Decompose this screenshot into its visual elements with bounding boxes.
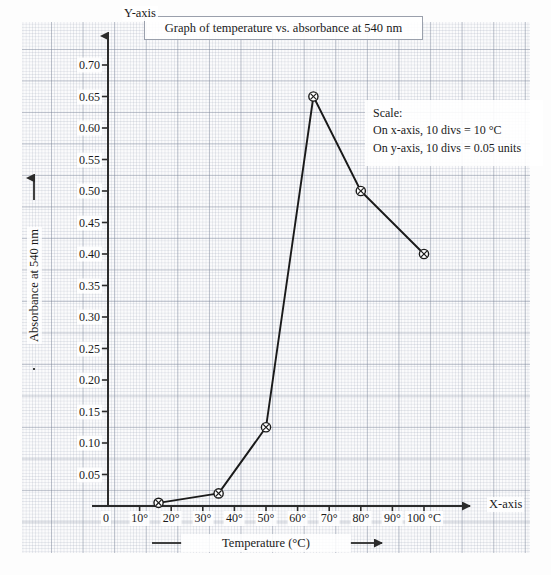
x-axis-caption: Temperature (°C)	[181, 534, 351, 552]
y-tick-label: 0.40	[77, 247, 102, 262]
data-point-marker	[154, 498, 163, 507]
y-axis-ticks	[101, 65, 108, 475]
y-tick-label: 0.25	[77, 341, 102, 356]
y-tick-label: 0.30	[77, 310, 102, 325]
x-tick-label: 60°	[287, 511, 308, 526]
data-point-marker	[214, 489, 223, 498]
x-tick-label: 40°	[224, 511, 245, 526]
y-tick-label: 0.05	[77, 467, 102, 482]
data-point-marker	[309, 92, 318, 101]
y-tick-label: 0.15	[77, 404, 102, 419]
y-tick-label: 0.10	[77, 436, 102, 451]
data-point-marker	[356, 186, 365, 195]
x-tick-label: 80°	[350, 511, 371, 526]
x-tick-label: 20°	[161, 511, 182, 526]
y-tick-label: 0.35	[77, 278, 102, 293]
x-tick-label: 30°	[192, 511, 213, 526]
scale-heading: Scale:	[373, 105, 535, 122]
x-tick-label: 50°	[256, 511, 277, 526]
y-tick-label: 0.60	[77, 121, 102, 136]
scale-x-line: On x-axis, 10 divs = 10 °C	[373, 122, 535, 139]
x-axis-name-label: X-axis	[487, 497, 524, 512]
x-tick-label: 90°	[382, 511, 403, 526]
y-axis-name-label: Y-axis	[122, 6, 158, 21]
chart-title-box: Graph of temperature vs. absorbance at 5…	[144, 16, 423, 40]
y-tick-label: 0.70	[77, 58, 102, 73]
y-axis-caption: Absorbance at 540 nm	[24, 205, 44, 365]
origin-label: 0	[101, 511, 111, 526]
y-tick-label: 0.45	[77, 215, 102, 230]
y-axis-tick-labels: 0.050.100.150.200.250.300.350.400.450.50…	[40, 0, 102, 575]
data-point-marker	[261, 423, 270, 432]
x-tick-label: 100 °C	[405, 511, 443, 526]
y-tick-label: 0.55	[77, 152, 102, 167]
x-tick-label: 10°	[129, 511, 150, 526]
scale-y-line: On y-axis, 10 divs = 0.05 units	[373, 140, 535, 157]
y-tick-label: 0.20	[77, 373, 102, 388]
y-tick-label: 0.50	[77, 184, 102, 199]
data-point-marker	[419, 249, 428, 258]
y-tick-label: 0.65	[77, 89, 102, 104]
scale-legend-box: Scale: On x-axis, 10 divs = 10 °C On y-a…	[365, 100, 543, 166]
x-tick-label: 70°	[319, 511, 340, 526]
chart-title: Graph of temperature vs. absorbance at 5…	[165, 21, 402, 36]
y-axis-caption-text: Absorbance at 540 nm	[27, 227, 42, 344]
graph-page: Graph of temperature vs. absorbance at 5…	[0, 0, 551, 575]
